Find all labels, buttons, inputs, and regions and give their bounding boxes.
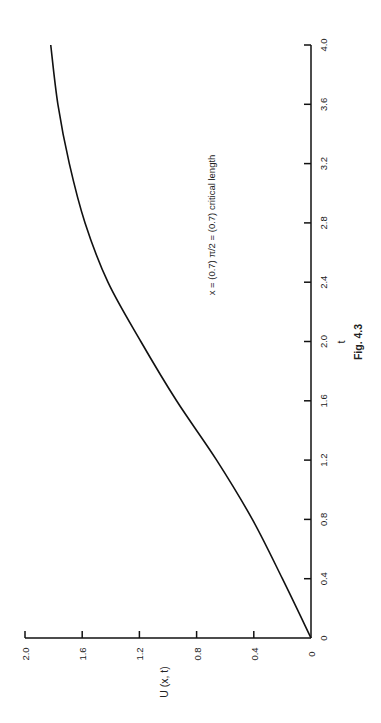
- t-tick-label: 3.2: [318, 157, 329, 170]
- t-tick-label: 1.6: [318, 394, 329, 407]
- u-tick-label: 0: [306, 651, 317, 656]
- t-tick-label: 0: [318, 635, 329, 640]
- t-tick-label: 2.0: [318, 335, 329, 348]
- t-tick-label: 3.6: [318, 98, 329, 111]
- t-tick-label: 4.0: [318, 38, 329, 51]
- u-tick-label: 0.8: [192, 647, 203, 660]
- u-tick-label: 1.2: [134, 647, 145, 660]
- t-tick-label: 2.8: [318, 216, 329, 229]
- t-axis-label: t: [335, 340, 347, 343]
- axes: 00.40.81.21.62.02.42.83.23.64.000.40.81.…: [20, 38, 329, 660]
- figure-caption: Fig. 4.3: [352, 324, 364, 360]
- u-tick-label: 1.6: [77, 647, 88, 660]
- u-tick-label: 0.4: [249, 647, 260, 660]
- t-tick-label: 2.4: [318, 276, 329, 289]
- data-curve: [51, 45, 311, 638]
- t-tick-label: 1.2: [318, 453, 329, 466]
- t-tick-label: 0.8: [318, 513, 329, 526]
- t-tick-label: 0.4: [318, 572, 329, 585]
- u-tick-label: 2.0: [20, 647, 31, 660]
- annotation-text: x = (0.7) π/2 = (0.7) critical length: [206, 155, 217, 296]
- chart: 00.40.81.21.62.02.42.83.23.64.000.40.81.…: [0, 0, 381, 723]
- u-axis-label: U (x, t): [158, 666, 170, 698]
